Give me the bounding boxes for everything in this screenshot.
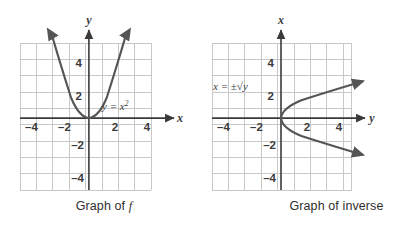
- panel-graph-of-f: x y –4 –2 2 4 4 2 –2 –4 y = x2 Graph of …: [0, 0, 200, 229]
- y-tick-label-pos2: 2: [76, 90, 82, 102]
- plot-graph-of-f: x y –4 –2 2 4 4 2 –2 –4 y = x2: [0, 0, 200, 199]
- panel-graph-of-inverse: y x –4 –2 2 4 4 2 –2 –4 x = ±√y Graph of…: [200, 0, 401, 229]
- caption-graph-of-f: Graph of f: [0, 199, 204, 214]
- caption-graph-of-inverse: Graph of inverse: [200, 199, 401, 213]
- y-tick-label-neg4: –4: [263, 172, 276, 184]
- x-tick-label-neg2: –2: [58, 121, 71, 133]
- curve-arrow-right: [126, 31, 129, 36]
- x-tick-label-pos4: 4: [336, 121, 343, 133]
- caption-symbol: f: [129, 199, 133, 213]
- inverse-curve-lower: [281, 118, 363, 155]
- x-axis-label: y: [367, 111, 375, 125]
- y-tick-label-pos4: 4: [76, 57, 83, 69]
- plot-graph-of-inverse: y x –4 –2 2 4 4 2 –2 –4 x = ±√y: [200, 0, 401, 199]
- figure-graph-of-f-and-inverse: x y –4 –2 2 4 4 2 –2 –4 y = x2 Graph of …: [0, 0, 401, 229]
- caption-prefix: Graph of: [289, 199, 342, 213]
- x-axis-label: x: [176, 111, 183, 125]
- caption-symbol: inverse: [343, 199, 384, 213]
- y-tick-label-pos4: 4: [268, 57, 275, 69]
- curve-arrow-upper: [355, 82, 361, 84]
- x-tick-label-pos4: 4: [144, 121, 151, 133]
- y-axis-label: x: [277, 13, 284, 27]
- y-tick-label-neg4: –4: [71, 172, 84, 184]
- y-axis-label: y: [84, 13, 92, 27]
- curve-arrow-left: [49, 31, 52, 36]
- y-tick-label-pos2: 2: [268, 90, 274, 102]
- x-tick-label-neg4: –4: [25, 121, 38, 133]
- inverse-curve-upper: [281, 82, 363, 119]
- x-tick-label-neg4: –4: [217, 121, 230, 133]
- equation-label-x-equals-plus-minus-sqrt-y: x = ±√y: [212, 80, 248, 92]
- curve-arrow-lower: [355, 153, 361, 155]
- x-tick-label-pos2: 2: [112, 121, 118, 133]
- x-tick-label-neg2: –2: [250, 121, 263, 133]
- equation-label-text: y = x: [101, 100, 125, 112]
- equation-label-exponent: 2: [125, 99, 129, 108]
- equation-label-y-equals-x-squared: y = x2: [101, 99, 129, 113]
- y-tick-label-neg2: –2: [263, 139, 276, 151]
- y-tick-label-neg2: –2: [71, 139, 84, 151]
- x-tick-label-pos2: 2: [304, 121, 310, 133]
- caption-prefix: Graph of: [76, 199, 129, 213]
